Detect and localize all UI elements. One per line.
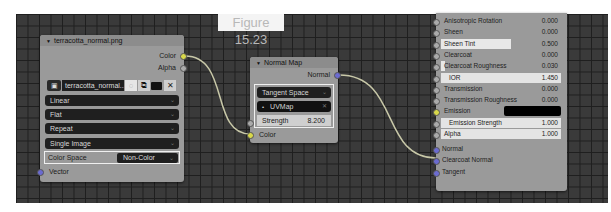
bsdf-field[interactable]: Clearcoat Roughness0.030 (441, 61, 561, 71)
figure-label: Figure 15.23 (218, 14, 284, 31)
bsdf-field[interactable]: IOR1.450 (441, 73, 561, 83)
bsdf-row-label: Emission (444, 106, 470, 116)
normal-map-settings: Tangent Space⌄ •UVMap✕ Strength 8.200 (254, 84, 334, 128)
space-dropdown[interactable]: Tangent Space⌄ (257, 87, 331, 98)
extension-dropdown[interactable]: Repeat⌄ (45, 123, 179, 134)
bsdf-input-normal: Normal (436, 144, 567, 155)
input-color-socket[interactable] (247, 132, 254, 139)
input-socket[interactable] (433, 98, 440, 105)
input-vector-socket[interactable] (37, 169, 44, 176)
open-folder-icon[interactable] (151, 82, 162, 90)
bsdf-row-transmission[interactable]: Transmission0.000 (436, 84, 567, 95)
bsdf-field[interactable]: Alpha1.000 (441, 129, 561, 139)
projection-value: Flat (50, 111, 62, 118)
output-alpha-socket[interactable] (180, 65, 187, 72)
input-socket[interactable] (433, 19, 440, 26)
image-selector[interactable]: ▣ terracotta_normal... ◌ ⧉ ✕ (47, 80, 177, 91)
image-node-header[interactable]: ▼terracotta_normal.png (40, 35, 184, 46)
collapse-triangle-icon[interactable]: ▼ (46, 36, 51, 47)
bsdf-row-label: Transmission (444, 84, 482, 94)
bsdf-row-anisotropic-rotation[interactable]: Anisotropic Rotation0.000 (436, 16, 567, 27)
bsdf-row-value: 1.000 (542, 129, 558, 139)
bsdf-field[interactable]: Anisotropic Rotation0.000 (441, 16, 561, 26)
bsdf-row-label: IOR (449, 73, 461, 83)
bsdf-row-label: Alpha (444, 129, 461, 139)
color-space-row: Color Space Non-Color⌄ (44, 151, 180, 164)
bsdf-row-clearcoat-roughness[interactable]: Clearcoat Roughness0.030 (436, 61, 567, 72)
chevron-down-icon: ⌄ (170, 109, 175, 120)
output-color-socket[interactable] (180, 53, 187, 60)
bsdf-row-value: 0.000 (542, 95, 558, 105)
chevron-down-icon: ⌄ (170, 123, 175, 134)
bsdf-row-value: 0.000 (542, 50, 558, 60)
bsdf-row-emission[interactable]: Emission (436, 106, 567, 117)
color-space-value: Non-Color (123, 154, 155, 161)
source-dropdown[interactable]: Single Image⌄ (45, 138, 179, 149)
bsdf-row-sheen-tint[interactable]: Sheen Tint0.500 (436, 39, 567, 50)
input-socket[interactable] (433, 121, 440, 128)
input-socket[interactable] (433, 30, 440, 37)
bsdf-row-value: 0.500 (542, 39, 558, 49)
input-socket[interactable] (433, 53, 440, 60)
input-socket[interactable] (433, 170, 440, 177)
principled-bsdf-node[interactable]: Anisotropic Rotation0.000Sheen0.000Sheen… (436, 13, 567, 191)
strength-label: Strength (262, 117, 288, 124)
color-space-label: Color Space (48, 153, 87, 163)
uv-map-field[interactable]: •UVMap✕ (257, 101, 331, 112)
input-socket[interactable] (433, 147, 440, 154)
bsdf-field[interactable]: Emission Strength1.000 (441, 118, 561, 128)
bsdf-row-label: Anisotropic Rotation (444, 16, 502, 26)
input-socket[interactable] (433, 158, 440, 165)
bsdf-row-value: 1.450 (542, 73, 558, 83)
bsdf-field[interactable]: Clearcoat0.000 (441, 50, 561, 60)
input-color-label: Color (259, 131, 276, 138)
chevron-down-icon: ⌄ (169, 153, 174, 163)
bsdf-row-ior[interactable]: IOR1.450 (436, 73, 567, 84)
input-socket[interactable] (433, 109, 440, 116)
input-socket[interactable] (433, 76, 440, 83)
bsdf-row-transmission-roughness[interactable]: Transmission Roughness0.000 (436, 95, 567, 106)
fake-user-shield-icon[interactable]: ◌ (125, 80, 137, 91)
bsdf-row-alpha[interactable]: Alpha1.000 (436, 129, 567, 140)
emission-color-swatch[interactable] (504, 106, 561, 116)
chevron-down-icon: ⌄ (170, 95, 175, 106)
input-socket[interactable] (433, 87, 440, 94)
strength-slider[interactable]: Strength 8.200 (257, 115, 331, 126)
output-normal-label: Normal (307, 71, 330, 78)
bsdf-row-value: 0.000 (542, 27, 558, 37)
uv-dot-icon: • (262, 104, 264, 110)
bsdf-row-emission-strength[interactable]: Emission Strength1.000 (436, 118, 567, 129)
bsdf-row-label: Emission Strength (449, 118, 502, 128)
input-socket[interactable] (433, 64, 440, 71)
source-value: Single Image (50, 140, 91, 147)
output-normal-socket[interactable] (334, 72, 341, 79)
bsdf-row-label: Sheen (444, 27, 463, 37)
clear-x-icon[interactable]: ✕ (322, 101, 327, 112)
strength-value: 8.200 (307, 115, 325, 126)
bsdf-row-value: 0.030 (542, 61, 558, 71)
unlink-icon[interactable]: ✕ (164, 80, 176, 91)
input-vector-label: Vector (49, 168, 69, 175)
bsdf-field[interactable]: Sheen Tint0.500 (441, 39, 561, 49)
input-strength-socket[interactable] (247, 120, 254, 127)
bsdf-field[interactable]: Sheen0.000 (441, 27, 561, 37)
bsdf-field[interactable]: Emission (441, 106, 561, 116)
normal-map-header[interactable]: ▼Normal Map (250, 57, 338, 68)
input-socket[interactable] (433, 42, 440, 49)
bsdf-field[interactable]: Transmission Roughness0.000 (441, 95, 561, 105)
collapse-triangle-icon[interactable]: ▼ (256, 58, 261, 69)
bsdf-row-sheen[interactable]: Sheen0.000 (436, 27, 567, 38)
color-space-dropdown[interactable]: Non-Color⌄ (117, 153, 178, 163)
duplicate-icon[interactable]: ⧉ (138, 80, 150, 91)
bsdf-row-clearcoat[interactable]: Clearcoat0.000 (436, 50, 567, 61)
bsdf-row-label: Sheen Tint (444, 39, 475, 49)
interpolation-dropdown[interactable]: Linear⌄ (45, 95, 179, 106)
bsdf-row-value: 0.000 (542, 84, 558, 94)
image-browse-icon[interactable]: ▣ (47, 80, 61, 91)
projection-dropdown[interactable]: Flat⌄ (45, 109, 179, 120)
image-name-field[interactable]: terracotta_normal... (62, 80, 124, 91)
input-socket[interactable] (433, 132, 440, 139)
bsdf-field[interactable]: Transmission0.000 (441, 84, 561, 94)
image-texture-node[interactable]: ▼terracotta_normal.png Color Alpha ▣ ter… (40, 35, 184, 182)
normal-map-node[interactable]: ▼Normal Map Normal Tangent Space⌄ •UVMap… (250, 57, 338, 143)
